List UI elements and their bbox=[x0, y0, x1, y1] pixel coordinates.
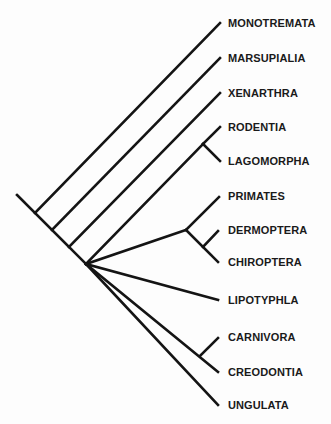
taxon-label-xenarthra: XENARTHRA bbox=[228, 87, 298, 99]
taxon-label-marsupialia: MARSUPIALIA bbox=[228, 52, 306, 64]
branch-glires bbox=[86, 144, 203, 264]
branch-ferae bbox=[86, 264, 218, 372]
branch-lagomorpha bbox=[203, 144, 220, 161]
branch-marsupialia bbox=[52, 58, 220, 230]
branch-dermoptera bbox=[203, 231, 218, 247]
branch-xenarthra bbox=[69, 93, 220, 247]
branch-primates bbox=[186, 197, 219, 230]
taxon-label-chiroptera: CHIROPTERA bbox=[228, 256, 302, 268]
branch-rodentia bbox=[203, 127, 220, 144]
taxon-label-primates: PRIMATES bbox=[228, 190, 285, 202]
branch-carnivora bbox=[200, 338, 218, 356]
taxon-label-ungulata: UNGULATA bbox=[228, 399, 289, 411]
taxon-label-rodentia: RODENTIA bbox=[228, 121, 286, 133]
taxon-label-creodontia: CREODONTIA bbox=[228, 366, 303, 378]
taxon-label-lipotyphla: LIPOTYPHLA bbox=[228, 294, 299, 306]
cladogram-diagram: MONOTREMATA MARSUPIALIA XENARTHRA RODENT… bbox=[0, 0, 331, 424]
taxon-label-carnivora: CARNIVORA bbox=[228, 331, 296, 343]
branch-monotremata bbox=[35, 23, 220, 213]
branch-ungulata bbox=[86, 264, 218, 405]
taxon-label-monotremata: MONOTREMATA bbox=[228, 17, 315, 29]
branch-lipotyphla bbox=[86, 264, 218, 300]
taxon-label-dermoptera: DERMOPTERA bbox=[228, 224, 307, 236]
taxon-label-lagomorpha: LAGOMORPHA bbox=[228, 155, 310, 167]
